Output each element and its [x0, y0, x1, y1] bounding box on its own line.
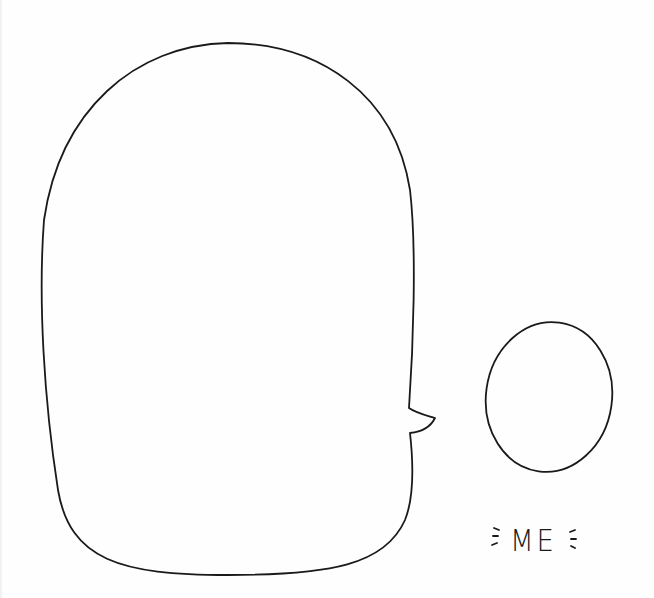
avatar-oval — [476, 314, 622, 480]
emphasis-marks-right — [570, 530, 576, 548]
illustration-canvas: ME — [0, 0, 654, 598]
drawing — [0, 0, 654, 598]
speech-bubble — [42, 43, 435, 575]
me-label: ME — [510, 523, 557, 558]
emphasis-marks-left — [492, 528, 499, 545]
